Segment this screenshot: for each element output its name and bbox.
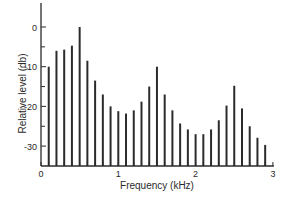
x-tick-label: 1 — [116, 169, 121, 179]
x-tick-label: 2 — [193, 169, 198, 179]
x-tick-label: 0 — [38, 169, 43, 179]
x-axis-label: Frequency (kHz) — [41, 180, 273, 191]
spectrum-chart: 0-10-20-300123 — [0, 0, 282, 197]
bars — [49, 27, 265, 166]
x-tick-label: 3 — [270, 169, 275, 179]
y-tick-label: 0 — [32, 23, 37, 33]
y-axis-label: Relative level (db) — [17, 39, 28, 149]
